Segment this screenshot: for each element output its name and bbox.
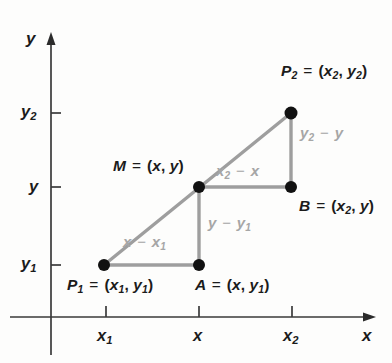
y-tick-label-y: y (29, 178, 38, 195)
point-label-b: B = (x2, y) (299, 198, 374, 215)
point-label-a: A = (x, y1) (195, 277, 270, 294)
figure-root: y x y2 y y1 x1 x x2 P2 = (x2, y2) M = (x… (0, 0, 392, 363)
point-marker-a (193, 259, 205, 271)
y-axis-arrowhead (47, 32, 56, 45)
x-tick-label-x1: x1 (97, 327, 113, 346)
y-axis-label: y (26, 30, 36, 47)
segment-label-y2-minus-y: y2 − y (300, 125, 343, 143)
y-tick-label-y1: y1 (21, 255, 37, 274)
point-label-p2: P2 = (x2, y2) (281, 63, 367, 80)
x-axis-arrowhead (363, 313, 376, 322)
x-tick-label-x2: x2 (283, 327, 299, 346)
x-axis-label: x (362, 327, 372, 344)
point-label-m: M = (x, y) (113, 158, 184, 174)
point-marker-m (193, 181, 205, 193)
y-tick-label-y2: y2 (21, 103, 37, 122)
point-marker-p1 (98, 259, 110, 271)
segment-label-y-minus-y1: y − y1 (208, 215, 251, 233)
point-label-p1: P1 = (x1, y1) (67, 277, 153, 294)
figure-canvas (0, 0, 392, 363)
x-tick-label-x: x (193, 327, 202, 344)
point-marker-p2 (285, 107, 298, 120)
point-marker-b (285, 181, 297, 193)
segment-label-x2-minus-x: x2 − x (216, 163, 259, 181)
segment-label-x-minus-x1: x − x1 (123, 234, 166, 252)
